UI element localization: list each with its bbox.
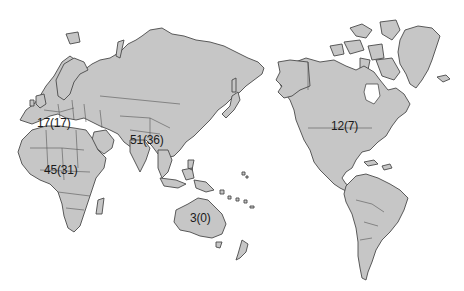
british-isles-shape xyxy=(30,94,46,108)
pacific-islands-shape xyxy=(220,172,254,208)
new-zealand-shape xyxy=(236,240,248,260)
madagascar-shape xyxy=(96,198,104,214)
label-north-america: 12(7) xyxy=(331,120,358,132)
label-asia: 51(36) xyxy=(130,134,164,146)
caribbean-islands-shape xyxy=(364,160,392,170)
greenland-shape xyxy=(398,26,440,88)
iceland-shape xyxy=(437,75,450,82)
africa-shape xyxy=(18,126,106,232)
label-europe: 17(17) xyxy=(37,117,71,129)
world-map xyxy=(0,0,464,291)
south-america-shape xyxy=(344,174,408,280)
tasmania-shape xyxy=(216,242,222,248)
label-africa: 45(31) xyxy=(44,164,78,176)
sakhalin-shape xyxy=(232,78,236,92)
label-australia: 3(0) xyxy=(190,212,211,224)
southeast-asia-shape xyxy=(158,150,172,178)
svalbard-shape xyxy=(66,32,80,44)
